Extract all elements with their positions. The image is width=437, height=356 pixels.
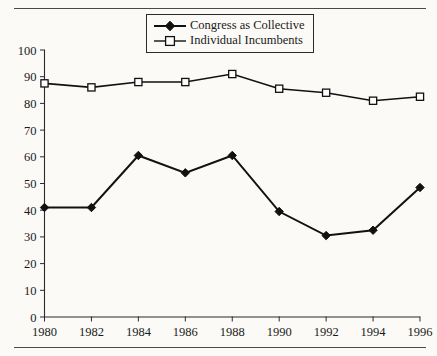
- diamond-data-point: [181, 169, 189, 177]
- x-tick-label: 1994: [361, 325, 387, 339]
- chart-legend: Congress as Collective Individual Incumb…: [146, 14, 314, 53]
- series-line-1: [45, 155, 421, 235]
- y-tick-label: 40: [24, 204, 37, 218]
- square-data-point: [416, 93, 423, 100]
- square-data-point: [276, 85, 283, 92]
- x-tick-label: 1996: [408, 325, 433, 339]
- square-data-point: [369, 97, 376, 104]
- chart-series: [40, 70, 424, 239]
- chart-figure: 0102030405060708090100198019821984198619…: [0, 0, 437, 356]
- legend-entry-incumbents: Individual Incumbents: [153, 33, 305, 48]
- chart-axes: [40, 50, 420, 322]
- x-tick-label: 1986: [173, 325, 198, 339]
- square-data-point: [323, 89, 330, 96]
- square-marker-icon: [153, 34, 187, 48]
- y-tick-label: 10: [24, 284, 37, 298]
- square-data-point: [41, 80, 48, 87]
- square-data-point: [229, 70, 236, 77]
- legend-entry-collective: Congress as Collective: [153, 18, 305, 33]
- y-tick-label: 60: [24, 150, 37, 164]
- square-data-point: [88, 84, 95, 91]
- y-tick-label: 70: [24, 124, 37, 138]
- chart-tick-labels: 0102030405060708090100198019821984198619…: [18, 44, 433, 340]
- square-data-point: [182, 78, 189, 85]
- x-tick-label: 1992: [314, 325, 339, 339]
- x-tick-label: 1982: [79, 325, 104, 339]
- diamond-data-point: [322, 231, 330, 239]
- line-chart-plot: 0102030405060708090100198019821984198619…: [0, 0, 437, 356]
- square-data-point: [135, 78, 142, 85]
- diamond-marker-icon: [153, 19, 187, 33]
- y-tick-label: 20: [24, 257, 37, 271]
- y-tick-label: 50: [24, 177, 37, 191]
- x-tick-label: 1990: [267, 325, 292, 339]
- legend-label-collective: Congress as Collective: [190, 18, 305, 32]
- y-tick-label: 90: [24, 70, 37, 84]
- x-tick-label: 1980: [32, 325, 57, 339]
- y-tick-label: 100: [18, 44, 37, 58]
- y-tick-label: 30: [24, 230, 37, 244]
- x-tick-label: 1988: [220, 325, 245, 339]
- y-tick-label: 0: [30, 311, 36, 325]
- x-tick-label: 1984: [126, 325, 152, 339]
- y-tick-label: 80: [24, 97, 37, 111]
- legend-label-incumbents: Individual Incumbents: [190, 33, 303, 47]
